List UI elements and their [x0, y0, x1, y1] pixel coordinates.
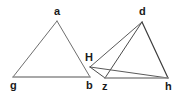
vertex-label-g: g [10, 80, 17, 91]
vertex-label-a: a [54, 6, 60, 17]
vertex-label-h: h [165, 81, 172, 92]
vertex-label-H: H [85, 52, 93, 63]
vertex-label-b: b [86, 80, 93, 91]
segment-d-h [142, 22, 168, 78]
segment-d-H [90, 22, 142, 67]
vertex-label-z: z [102, 81, 108, 92]
segment-H-h [90, 67, 168, 78]
geometry-figure: agbHdzh [0, 0, 183, 97]
segment-a-b [57, 21, 90, 77]
vertex-label-d: d [139, 6, 146, 17]
edge-layer [13, 21, 168, 78]
segment-a-g [13, 21, 57, 77]
